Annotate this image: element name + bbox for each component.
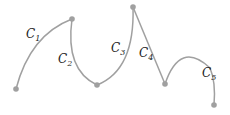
point-1 [69,16,75,22]
label-c2: C2 [58,52,72,68]
point-3 [130,4,136,10]
point-4 [162,81,168,87]
point-5 [211,102,217,108]
point-0 [13,86,19,92]
label-c4: C4 [139,46,153,62]
label-c1: C1 [26,27,40,43]
segment-c2 [71,19,97,85]
point-2 [94,82,100,88]
label-c3: C3 [111,41,125,57]
segment-c5 [165,57,215,105]
curve-diagram: C1 C2 C3 C4 C5 [0,0,230,115]
label-c5: C5 [202,66,216,82]
segment-c4 [133,7,165,84]
